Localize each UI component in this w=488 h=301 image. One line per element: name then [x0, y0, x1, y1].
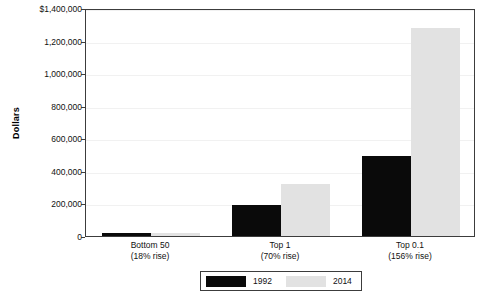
legend-item-1992: 1992: [206, 272, 286, 290]
y-tickmark: [81, 237, 85, 238]
y-tick-label: 200,000: [16, 199, 82, 209]
y-tick-label: 400,000: [16, 167, 82, 177]
y-tick-label: 1,000,000: [16, 69, 82, 79]
bar-chart-figure: Dollars 0200,000400,000600,000800,0001,0…: [0, 0, 488, 301]
x-axis-category-labels: Bottom 50(18% rise)Top 1(70% rise)Top 0.…: [85, 240, 475, 266]
y-tick-label: 0: [16, 232, 82, 242]
y-tick-label: 600,000: [16, 134, 82, 144]
x-category-label: Top 0.1(156% rise): [388, 240, 431, 262]
legend-swatch-1992: [206, 276, 246, 287]
y-tickmark: [81, 74, 85, 75]
x-category-name: Top 1: [270, 240, 291, 250]
x-category-sublabel: (70% rise): [261, 251, 300, 262]
y-tick-label: $1,400,000: [16, 4, 82, 14]
x-category-label: Bottom 50(18% rise): [131, 240, 170, 262]
y-tickmark: [81, 172, 85, 173]
x-category-name: Bottom 50: [131, 240, 170, 250]
y-axis-tick-labels: 0200,000400,000600,000800,0001,000,0001,…: [12, 0, 82, 301]
x-category-sublabel: (156% rise): [388, 251, 431, 262]
y-tickmark: [81, 9, 85, 10]
y-tick-label: 1,200,000: [16, 37, 82, 47]
y-tickmark: [81, 42, 85, 43]
legend-label-1992: 1992: [253, 276, 272, 286]
y-tick-label: 800,000: [16, 102, 82, 112]
y-axis-tickmarks: [85, 9, 475, 237]
legend-item-2014: 2014: [286, 272, 356, 290]
y-tickmark: [81, 139, 85, 140]
chart-legend: 19922014: [200, 271, 362, 291]
x-category-name: Top 0.1: [396, 240, 424, 250]
y-tickmark: [81, 107, 85, 108]
legend-label-2014: 2014: [333, 276, 352, 286]
x-category-label: Top 1(70% rise): [261, 240, 300, 262]
legend-swatch-2014: [286, 276, 326, 287]
y-tickmark: [81, 204, 85, 205]
x-category-sublabel: (18% rise): [131, 251, 170, 262]
